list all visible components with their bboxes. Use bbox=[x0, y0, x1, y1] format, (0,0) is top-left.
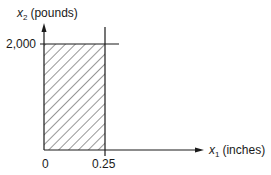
y-axis-arrow-icon bbox=[42, 23, 47, 32]
y-axis-label: x2(pounds) bbox=[16, 6, 78, 22]
x-origin-label: 0 bbox=[42, 157, 49, 171]
x-tick-label: 0.25 bbox=[92, 157, 116, 171]
x-axis-arrow-icon bbox=[195, 148, 204, 153]
y-tick-label: 2,000 bbox=[6, 37, 36, 51]
feasible-region-chart: x2(pounds) 2,000 0 0.25 x1(inches) bbox=[0, 0, 271, 175]
feasible-region bbox=[44, 44, 105, 150]
x-axis-label: x1(inches) bbox=[208, 143, 265, 159]
